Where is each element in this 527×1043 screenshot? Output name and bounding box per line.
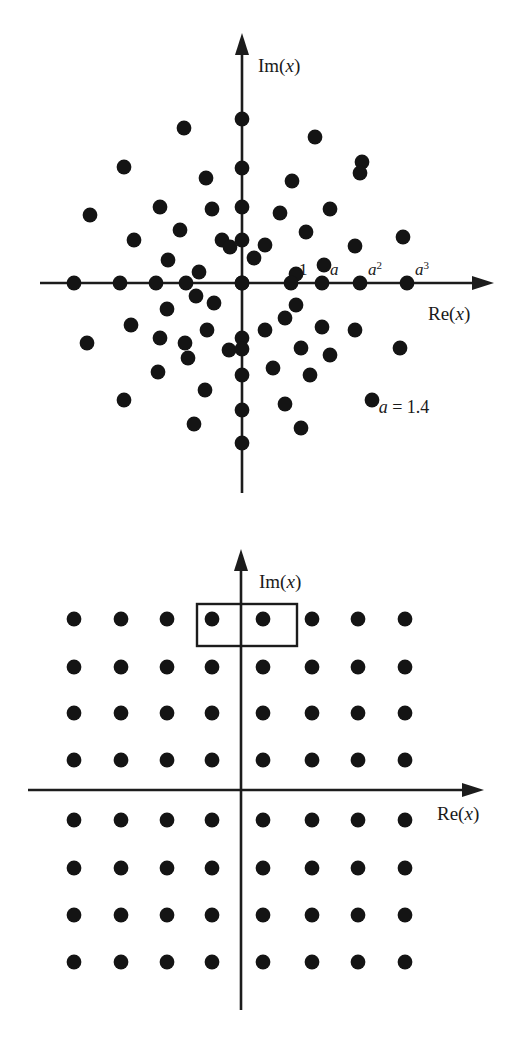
scatter-data-point — [83, 208, 98, 223]
imaginary-axis — [234, 549, 248, 1010]
scatter-data-point — [80, 336, 95, 351]
lattice-data-point — [305, 612, 320, 627]
lattice-data-point — [256, 612, 271, 627]
lattice-data-point — [114, 660, 129, 675]
lattice-data-point — [205, 955, 220, 970]
scatter-data-point — [400, 276, 415, 291]
imaginary-axis-arrowhead — [235, 33, 249, 55]
scatter-data-point — [323, 202, 338, 217]
scatter-data-point — [161, 253, 176, 268]
lattice-data-point — [305, 861, 320, 876]
scatter-data-point — [348, 239, 363, 254]
lattice-data-point — [205, 660, 220, 675]
lattice-data-point — [114, 955, 129, 970]
scatter-data-point — [393, 341, 408, 356]
real-axis-tick-label: a — [330, 260, 339, 279]
lattice-data-point — [67, 813, 82, 828]
lattice-data-point — [351, 955, 366, 970]
scatter-data-point — [235, 161, 250, 176]
lattice-data-point — [205, 706, 220, 721]
scatter-data-point — [365, 393, 380, 408]
imaginary-axis-label: Im(x) — [258, 55, 300, 77]
lattice-data-point — [398, 706, 413, 721]
lattice-data-point — [351, 813, 366, 828]
lattice-data-point — [160, 955, 175, 970]
scatter-data-point — [181, 351, 196, 366]
scatter-data-point — [235, 368, 250, 383]
lattice-data-point — [67, 753, 82, 768]
lattice-plot-canvas: Im(x) Re(x) — [0, 520, 527, 1043]
parameter-annotation: a = 1.4 — [379, 397, 430, 417]
scatter-data-point — [192, 265, 207, 280]
imaginary-axis-label: Im(x) — [259, 571, 301, 593]
scatter-point-group — [67, 112, 415, 451]
page-bottom-edge — [0, 1035, 527, 1043]
lattice-data-point — [67, 955, 82, 970]
real-axis-label: Re(x) — [437, 803, 479, 825]
lattice-data-point — [398, 813, 413, 828]
lattice-data-point — [160, 612, 175, 627]
scatter-data-point — [198, 383, 213, 398]
scatter-data-point — [153, 200, 168, 215]
scatter-data-point — [67, 276, 82, 291]
scatter-data-point — [273, 206, 288, 221]
lattice-data-point — [256, 660, 271, 675]
lattice-data-point — [398, 861, 413, 876]
lattice-data-point — [305, 753, 320, 768]
scatter-data-point — [200, 323, 215, 338]
scatter-data-point — [124, 318, 139, 333]
lattice-data-point — [67, 908, 82, 923]
scatter-data-point — [299, 225, 314, 240]
scatter-data-point — [153, 331, 168, 346]
lattice-data-point — [160, 861, 175, 876]
lattice-data-point — [305, 660, 320, 675]
lattice-data-point — [398, 612, 413, 627]
lattice-data-point — [160, 706, 175, 721]
scatter-data-point — [258, 238, 273, 253]
scatter-data-point — [173, 223, 188, 238]
scatter-data-point — [294, 421, 309, 436]
real-axis-tick-label: 1 — [299, 260, 308, 279]
scatter-data-point — [247, 251, 262, 266]
lattice-data-point — [67, 660, 82, 675]
scatter-panel: 1aa2a3 Im(x) Re(x) a = 1.4 — [0, 0, 527, 520]
lattice-data-point — [256, 955, 271, 970]
lattice-data-point — [67, 612, 82, 627]
scatter-data-point — [348, 323, 363, 338]
scatter-data-point — [308, 130, 323, 145]
scatter-data-point — [294, 341, 309, 356]
scatter-data-point — [278, 311, 293, 326]
real-axis-arrowhead — [462, 783, 484, 797]
scatter-data-point — [189, 289, 204, 304]
real-axis-tick-label: a2 — [368, 259, 382, 279]
scatter-data-point — [178, 336, 193, 351]
lattice-data-point — [351, 612, 366, 627]
lattice-data-point — [305, 955, 320, 970]
lattice-data-point — [398, 908, 413, 923]
lattice-data-point — [305, 813, 320, 828]
scatter-data-point — [278, 397, 293, 412]
lattice-data-point — [256, 813, 271, 828]
scatter-data-point — [160, 302, 175, 317]
figure-root: 1aa2a3 Im(x) Re(x) a = 1.4 — [0, 0, 527, 1043]
lattice-data-point — [114, 813, 129, 828]
imaginary-axis — [235, 33, 249, 493]
imaginary-axis-arrowhead — [234, 549, 248, 571]
scatter-data-point — [396, 230, 411, 245]
scatter-data-point — [177, 121, 192, 136]
scatter-data-point — [222, 343, 237, 358]
lattice-data-point — [351, 861, 366, 876]
real-axis — [40, 276, 494, 290]
lattice-data-point — [114, 908, 129, 923]
real-axis-label: Re(x) — [428, 303, 470, 325]
lattice-data-point — [205, 753, 220, 768]
lattice-data-point — [160, 908, 175, 923]
real-axis-tick-label: a3 — [415, 259, 430, 279]
scatter-data-point — [235, 200, 250, 215]
scatter-data-point — [117, 393, 132, 408]
lattice-data-point — [160, 753, 175, 768]
lattice-data-point — [160, 813, 175, 828]
scatter-data-point — [235, 276, 250, 291]
scatter-data-point — [117, 160, 132, 175]
scatter-data-point — [235, 342, 250, 357]
